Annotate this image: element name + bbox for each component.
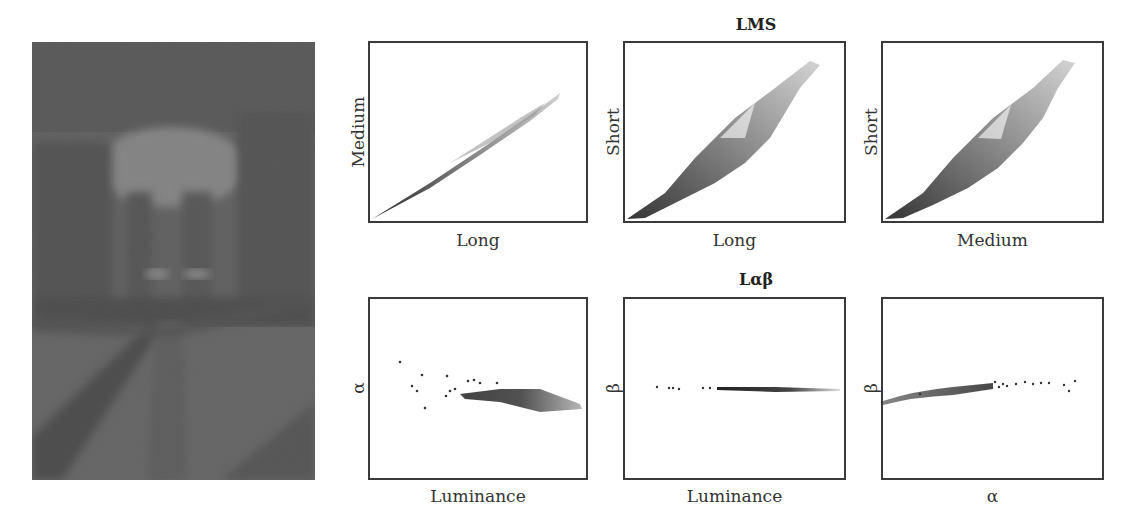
x-axis-label: Luminance — [368, 486, 588, 506]
scatter-points — [883, 43, 1102, 221]
x-axis-label: Long — [623, 230, 846, 250]
x-axis-label: Long — [368, 230, 588, 250]
scatter-points — [370, 299, 586, 478]
y-axis-label: β — [861, 348, 881, 428]
scatter-points — [883, 299, 1102, 478]
landscape-photo — [32, 42, 315, 480]
scatter-plot-long-short — [623, 41, 846, 223]
scatter-plot-luminance-alpha — [368, 297, 588, 480]
y-axis-label: α — [348, 348, 368, 428]
scatter-plot-long-medium — [368, 41, 588, 223]
x-axis-label: Luminance — [623, 486, 846, 506]
section-title-lab: Lαβ — [706, 270, 806, 289]
scatter-plot-alpha-beta — [881, 297, 1104, 480]
x-axis-label: Medium — [881, 230, 1104, 250]
scatter-points — [625, 43, 844, 221]
y-axis-label: Medium — [348, 92, 368, 172]
scatter-points — [625, 299, 844, 478]
scatter-plot-luminance-beta — [623, 297, 846, 480]
scatter-points — [370, 43, 586, 221]
y-axis-label: β — [603, 348, 623, 428]
scatter-plot-medium-short — [881, 41, 1104, 223]
y-axis-label: Short — [861, 92, 881, 172]
y-axis-label: Short — [603, 92, 623, 172]
x-axis-label: α — [881, 486, 1104, 506]
section-title-lms: LMS — [706, 15, 806, 34]
